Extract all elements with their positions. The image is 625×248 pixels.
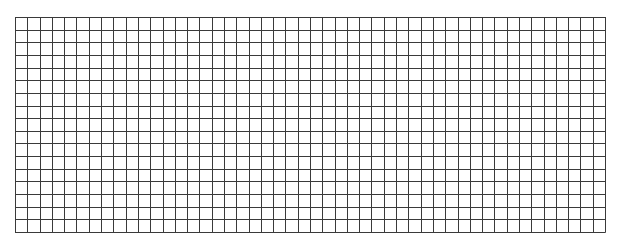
grid-paper	[0, 0, 625, 248]
